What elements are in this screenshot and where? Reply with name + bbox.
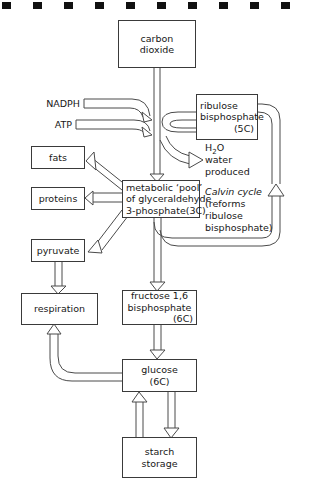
fats-label: fats xyxy=(49,152,67,164)
node-metabolic-pool[interactable]: metabolic ‘pool’ of glyceraldehyde 3-pho… xyxy=(122,180,200,218)
ribulose-bisphosphate-line-2: bisphosphate xyxy=(200,111,264,123)
label-calvin-line3: ribulose xyxy=(205,210,243,222)
node-fructose-bisphosphate[interactable]: fructose 1,6 bisphosphate (6C) xyxy=(122,290,197,325)
arrow-glucose-to-starch xyxy=(164,392,179,438)
node-glucose[interactable]: glucose (6C) xyxy=(122,359,197,392)
fructose-bisphosphate-carbon-count: (6C) xyxy=(173,313,196,325)
arrow-pool-to-fats xyxy=(86,152,122,190)
glucose-line-2: (6C) xyxy=(149,376,169,388)
arrow-fructose-to-glucose xyxy=(150,325,165,359)
diagram-canvas: carbon dioxide ribulose bisphosphate (5C… xyxy=(0,0,315,496)
respiration-label: respiration xyxy=(34,303,85,315)
node-respiration[interactable]: respiration xyxy=(21,293,98,325)
arrow-glucose-to-respiration xyxy=(47,324,122,381)
node-starch-storage[interactable]: starch storage xyxy=(122,437,197,478)
label-nadph: NADPH xyxy=(20,98,80,109)
fructose-bisphosphate-line-1: fructose 1,6 xyxy=(131,290,188,302)
arrow-starch-to-glucose xyxy=(132,392,147,437)
arrow-atp-input xyxy=(76,120,152,137)
starch-storage-line-2: storage xyxy=(141,458,177,470)
glucose-line-1: glucose xyxy=(141,364,178,376)
ribulose-bisphosphate-line-1: ribulose xyxy=(200,100,238,112)
arrow-water-produced xyxy=(160,136,203,168)
fructose-bisphosphate-line-2: bisphosphate xyxy=(128,302,192,314)
arrow-nadph-input xyxy=(84,99,152,122)
proteins-label: proteins xyxy=(39,193,78,205)
carbon-dioxide-line-2: dioxide xyxy=(140,44,174,56)
label-calvin-cycle-title: Calvin cycle xyxy=(205,186,262,198)
node-proteins[interactable]: proteins xyxy=(31,187,85,210)
starch-storage-line-1: starch xyxy=(145,446,174,458)
ribulose-bisphosphate-carbon-count: (5C) xyxy=(234,123,257,135)
label-water-line2: water xyxy=(205,154,232,166)
carbon-dioxide-line-1: carbon xyxy=(141,33,174,45)
node-ribulose-bisphosphate[interactable]: ribulose bisphosphate (5C) xyxy=(196,94,258,140)
label-calvin-line2: (reforms xyxy=(205,198,245,210)
water-formula-post: O xyxy=(217,142,224,153)
metabolic-pool-line-2: of glyceraldehyde xyxy=(126,193,211,205)
arrow-pyruvate-to-respiration xyxy=(51,262,66,294)
node-carbon-dioxide[interactable]: carbon dioxide xyxy=(118,20,196,68)
node-pyruvate[interactable]: pyruvate xyxy=(31,239,85,262)
label-water-line3: produced xyxy=(205,166,250,178)
pyruvate-label: pyruvate xyxy=(37,245,80,257)
label-calvin-line4: bisphosphate) xyxy=(205,222,273,234)
metabolic-pool-line-3: 3-phosphate(3C) xyxy=(126,205,206,217)
metabolic-pool-line-1: metabolic ‘pool’ xyxy=(126,182,202,194)
node-fats[interactable]: fats xyxy=(31,146,85,169)
arrow-pool-to-proteins xyxy=(85,191,122,205)
label-atp: ATP xyxy=(20,119,72,130)
arrow-rubp-to-junction xyxy=(162,112,196,132)
arrow-pool-to-fructose xyxy=(150,218,165,291)
